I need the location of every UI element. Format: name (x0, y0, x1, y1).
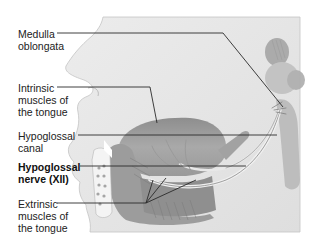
label-medulla-oblongata: Medulla oblongata (18, 28, 64, 52)
label-hypoglossal-nerve: Hypoglossal nerve (XII) (18, 161, 80, 185)
label-extrinsic-muscles: Extrinsic muscles of the tongue (18, 198, 68, 234)
label-intrinsic-muscles: Intrinsic muscles of the tongue (18, 82, 68, 118)
anatomy-figure: Medulla oblongata Intrinsic muscles of t… (0, 0, 327, 251)
label-hypoglossal-canal: Hypoglossal canal (18, 130, 75, 154)
